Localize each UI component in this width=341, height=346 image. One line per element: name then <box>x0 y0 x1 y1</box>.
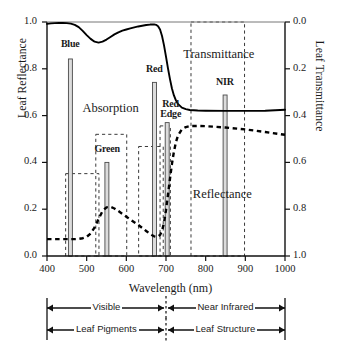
x-tick-label: 900 <box>225 263 265 274</box>
band-label: Blue <box>61 38 80 49</box>
band-bar <box>153 82 157 256</box>
band-label: NIR <box>216 76 234 87</box>
range-bar-label: Leaf Structure <box>194 323 258 334</box>
range-bar-label: Leaf Pigments <box>74 323 139 334</box>
band-box <box>139 146 164 256</box>
x-tick-label: 500 <box>67 263 107 274</box>
band-bar <box>165 123 169 256</box>
y-tick-label-left: 0.0 <box>3 249 37 260</box>
x-tick-label: 700 <box>146 263 186 274</box>
x-tick-label: 1000 <box>265 263 305 274</box>
plot-canvas <box>0 0 341 346</box>
leaf-spectral-reflectance-chart: Leaf Reflectance Leaf Transmittance Wave… <box>0 0 341 346</box>
y-tick-label-left: 0.2 <box>3 202 37 213</box>
region-annotation: Reflectance <box>193 187 252 202</box>
band-label: Edge <box>160 108 181 119</box>
y-tick-label-right: 0.0 <box>293 15 327 26</box>
y-tick-label-right: 0.4 <box>293 109 327 120</box>
range-bar-group <box>0 296 341 346</box>
region-annotation: Transmittance <box>183 47 254 62</box>
y-tick-label-right: 1.0 <box>293 249 327 260</box>
x-tick-label: 400 <box>27 263 67 274</box>
band-bar <box>68 59 72 256</box>
y-tick-label-right: 0.8 <box>293 202 327 213</box>
band-label: Green <box>94 143 119 154</box>
y-tick-label-left: 0.8 <box>3 62 37 73</box>
band-bar <box>223 95 227 256</box>
range-bar-label: Near Infrared <box>196 301 256 312</box>
y-tick-label-left: 0.4 <box>3 155 37 166</box>
y-tick-label-left: 0.6 <box>3 109 37 120</box>
y-tick-label-right: 0.6 <box>293 155 327 166</box>
y-tick-label-right: 0.2 <box>293 62 327 73</box>
region-annotation: Absorption <box>82 101 138 116</box>
band-label: Red <box>146 63 163 74</box>
y-tick-label-left: 1.0 <box>3 15 37 26</box>
x-tick-label: 800 <box>186 263 226 274</box>
x-tick-label: 600 <box>106 263 146 274</box>
range-bar-label: Visible <box>91 301 123 312</box>
